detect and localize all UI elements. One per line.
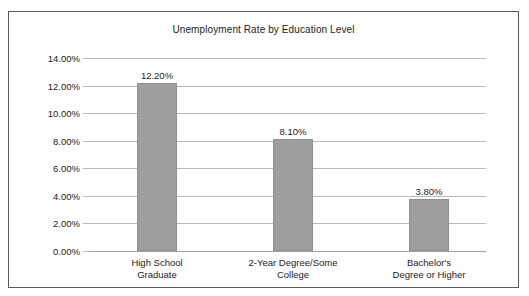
- bar-value-label: 8.10%: [280, 126, 307, 137]
- y-axis-tick: [83, 141, 89, 142]
- y-axis-tick: [83, 113, 89, 114]
- y-axis-tick: [83, 86, 89, 87]
- bar: 8.10%: [273, 139, 313, 251]
- y-axis-tick: [83, 223, 89, 224]
- x-axis-category-label: 2-Year Degree/SomeCollege: [249, 257, 338, 281]
- y-axis-tick: [83, 251, 89, 252]
- y-axis-label: 8.00%: [53, 135, 80, 146]
- x-axis-category-line: Graduate: [131, 269, 182, 281]
- x-axis-category-label: High SchoolGraduate: [131, 257, 182, 281]
- y-axis-label: 2.00%: [53, 218, 80, 229]
- y-axis-label: 6.00%: [53, 163, 80, 174]
- y-axis-label: 0.00%: [53, 246, 80, 257]
- x-axis-category-line: High School: [131, 257, 182, 269]
- plot-area: 14.00%12.00%10.00%8.00%6.00%4.00%2.00%0.…: [89, 58, 486, 251]
- y-axis-label: 12.00%: [48, 80, 80, 91]
- gridline: [89, 251, 486, 252]
- y-axis-label: 10.00%: [48, 108, 80, 119]
- chart-frame: Unemployment Rate by Education Level 14.…: [8, 11, 519, 288]
- bar: 3.80%: [409, 199, 449, 251]
- y-axis-tick: [83, 168, 89, 169]
- x-axis-category-line: Degree or Higher: [393, 269, 466, 281]
- bar-value-label: 12.20%: [141, 70, 173, 81]
- y-axis-tick: [83, 58, 89, 59]
- chart-title: Unemployment Rate by Education Level: [9, 24, 518, 35]
- x-axis-category-line: 2-Year Degree/Some: [249, 257, 338, 269]
- x-axis-category-line: Bachelor's: [393, 257, 466, 269]
- bar-value-label: 3.80%: [416, 186, 443, 197]
- y-axis-label: 4.00%: [53, 190, 80, 201]
- y-axis-tick: [83, 196, 89, 197]
- y-axis-label: 14.00%: [48, 53, 80, 64]
- bar: 12.20%: [137, 83, 177, 251]
- page-scan-artifact: [14, 0, 519, 7]
- gridline: [89, 58, 486, 59]
- x-axis-category-label: Bachelor'sDegree or Higher: [393, 257, 466, 281]
- x-axis-category-line: College: [249, 269, 338, 281]
